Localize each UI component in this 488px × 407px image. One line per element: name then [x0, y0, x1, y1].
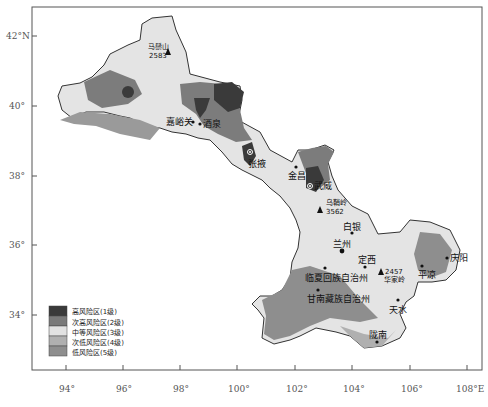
svg-text:马鬃山: 马鬃山 — [148, 42, 169, 51]
svg-text:2583: 2583 — [149, 52, 167, 60]
city-label: 张掖 — [248, 158, 266, 169]
city-label: 嘉峪关 — [166, 116, 193, 127]
city-label: 酒泉 — [203, 118, 221, 129]
city-label: 白银 — [343, 221, 361, 232]
y-tick-label: 38° — [9, 171, 25, 181]
city-label: 临夏回族自治州 — [305, 272, 368, 283]
svg-text:高风险区(1级): 高风险区(1级) — [72, 307, 117, 316]
x-tick-label: 94° — [59, 384, 75, 394]
svg-text:华家岭: 华家岭 — [384, 275, 405, 284]
city-label: 陇南 — [369, 329, 387, 340]
legend: 高风险区(1级) 次高风险区(2级) 中等风险区(3级) 次低风险区(4级) 低… — [49, 306, 124, 357]
y-tick-label: 34° — [9, 310, 25, 320]
x-tick-label: 100° — [228, 384, 250, 394]
city-label: 甘南藏族自治州 — [307, 293, 370, 304]
city-label: 天水 — [389, 304, 407, 315]
city-label: 金昌 — [288, 170, 306, 181]
risk-zoning-map: 42°N 40° 38° 36° 34° 94° 96° 98° 100° 10… — [0, 0, 488, 407]
svg-text:2457: 2457 — [385, 268, 403, 276]
y-tick-label: 40° — [9, 101, 25, 111]
svg-text:中等风险区(3级): 中等风险区(3级) — [72, 328, 124, 337]
y-tick-label: 42°N — [6, 31, 30, 41]
x-tick-label: 98° — [173, 384, 189, 394]
city-label: 兰州 — [333, 238, 351, 249]
city-label: 武威 — [314, 180, 332, 191]
svg-text:次高风险区(2级): 次高风险区(2级) — [72, 318, 124, 327]
y-tick-label: 36° — [9, 240, 25, 250]
svg-text:乌鞘岭: 乌鞘岭 — [326, 198, 347, 207]
x-tick-label: 108°E — [456, 384, 484, 394]
city-label: 定西 — [358, 254, 376, 265]
city-label: 平凉 — [418, 269, 436, 280]
x-tick-label: 106° — [401, 384, 423, 394]
x-tick-label: 104° — [343, 384, 365, 394]
city-label: 庆阳 — [450, 252, 468, 263]
svg-text:次低风险区(4级): 次低风险区(4级) — [72, 338, 124, 347]
svg-text:低风险区(5级): 低风险区(5级) — [72, 348, 117, 357]
x-tick-label: 102° — [286, 384, 308, 394]
svg-text:3562: 3562 — [326, 208, 344, 216]
x-tick-label: 96° — [116, 384, 132, 394]
